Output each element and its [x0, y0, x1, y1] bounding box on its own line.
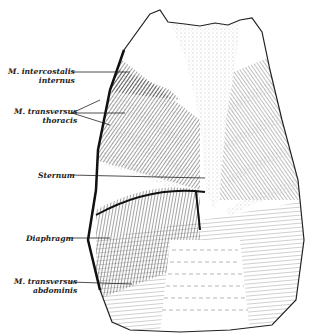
label-line: M. intercostalis	[8, 67, 75, 76]
label-transversus-thoracis: M. transversus thoracis	[14, 107, 77, 125]
label-diaphragm: Diaphragm	[26, 234, 74, 243]
label-line: Sternum	[38, 171, 75, 180]
label-line: thoracis	[14, 116, 77, 125]
label-line: M. transversus	[14, 107, 77, 116]
label-line: Diaphragm	[26, 234, 74, 243]
label-sternum: Sternum	[38, 171, 75, 180]
anatomical-figure: M. intercostalis internus M. transversus…	[0, 0, 316, 334]
label-intercostalis-internus: M. intercostalis internus	[8, 67, 75, 85]
label-line: M. transversus	[14, 277, 77, 286]
label-transversus-abdominis: M. transversus abdominis	[14, 277, 77, 295]
label-line: abdominis	[14, 286, 77, 295]
label-line: internus	[8, 76, 75, 85]
